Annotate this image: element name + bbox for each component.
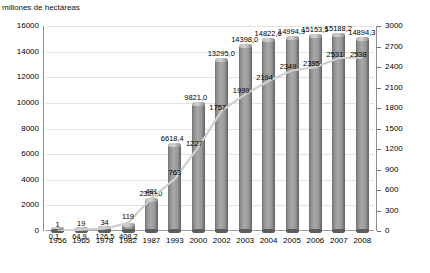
x-axis-tick-label: 2008 bbox=[353, 236, 371, 245]
line-point-label: 481 bbox=[145, 188, 158, 196]
line-series-layer: 1193411948176312271757199921942349239525… bbox=[46, 26, 374, 231]
x-axis-labels: 1956196519781982198719932000200220032004… bbox=[46, 236, 374, 252]
right-axis-tick-mark bbox=[377, 149, 381, 150]
x-axis-tick-label: 1993 bbox=[166, 236, 184, 245]
right-axis-tick-label: 600 bbox=[385, 186, 398, 194]
line-point-label: 2395 bbox=[303, 60, 320, 68]
line-point-label: 2194 bbox=[256, 74, 273, 82]
left-axis-tick-label: 4000 bbox=[21, 176, 39, 184]
line-series-svg bbox=[46, 26, 374, 231]
right-axis-tick-label: 300 bbox=[385, 207, 398, 215]
left-axis-tick-label: 8000 bbox=[21, 125, 39, 133]
x-axis-tick-label: 2002 bbox=[213, 236, 231, 245]
right-axis-tick-mark bbox=[377, 190, 381, 191]
x-axis-tick-label: 1982 bbox=[119, 236, 137, 245]
left-axis-tick-label: 2000 bbox=[21, 201, 39, 209]
line-point-label: 34 bbox=[100, 219, 108, 227]
right-axis-tick-label: 1200 bbox=[385, 145, 403, 153]
line-point-label: 1999 bbox=[233, 87, 250, 95]
left-axis-tick-label: 16000 bbox=[17, 22, 39, 30]
line-point-label: 2538 bbox=[350, 51, 367, 59]
right-axis-tick-mark bbox=[377, 211, 381, 212]
line-point-label: 119 bbox=[122, 213, 134, 221]
x-axis-tick-label: 2005 bbox=[283, 236, 301, 245]
right-axis-tick-mark bbox=[377, 108, 381, 109]
right-axis-tick-label: 1800 bbox=[385, 104, 403, 112]
right-axis-tick-label: 2400 bbox=[385, 63, 403, 71]
left-axis-tick-label: 14000 bbox=[17, 48, 39, 56]
x-axis-tick-label: 2003 bbox=[236, 236, 254, 245]
left-axis-tick-label: 10000 bbox=[17, 99, 39, 107]
right-axis-tick-label: 3000 bbox=[385, 22, 403, 30]
right-axis-tick-label: 0 bbox=[385, 227, 389, 235]
line-point-label: 763 bbox=[169, 169, 182, 177]
right-axis-tick-label: 2700 bbox=[385, 43, 403, 51]
right-axis-tick-mark bbox=[377, 129, 381, 130]
right-axis-tick-mark bbox=[377, 47, 381, 48]
x-axis-tick-label: 2004 bbox=[260, 236, 278, 245]
right-axis-tick-mark bbox=[377, 88, 381, 89]
right-axis-tick-mark bbox=[377, 170, 381, 171]
right-axis-tick-mark bbox=[377, 231, 381, 232]
line-point-label: 2531 bbox=[327, 51, 344, 59]
x-axis-tick-label: 2006 bbox=[307, 236, 325, 245]
line-point-label: 1227 bbox=[186, 140, 203, 148]
x-axis-tick-label: 1978 bbox=[96, 236, 114, 245]
right-axis-tick-label: 2100 bbox=[385, 84, 403, 92]
line-point-label: 2349 bbox=[280, 63, 297, 71]
y-axis-title: millones de hectáreas bbox=[2, 3, 80, 13]
x-axis-tick-label: 2007 bbox=[330, 236, 348, 245]
x-axis-tick-label: 1965 bbox=[72, 236, 90, 245]
left-axis-tick-label: 0 bbox=[35, 227, 39, 235]
left-axis-tick-label: 12000 bbox=[17, 73, 39, 81]
right-y-axis: 03006009001200150018002100240027003000 bbox=[376, 26, 428, 231]
left-axis-spine bbox=[43, 26, 44, 231]
line-point-label: 1 bbox=[56, 221, 60, 229]
x-axis-tick-label: 1956 bbox=[49, 236, 67, 245]
chart-container: millones de hectáreas 020004000600080001… bbox=[0, 0, 430, 273]
right-axis-tick-label: 900 bbox=[385, 166, 398, 174]
line-point-label: 19 bbox=[77, 220, 85, 228]
line-point-label: 1757 bbox=[209, 104, 226, 112]
x-axis-tick-label: 1987 bbox=[143, 236, 161, 245]
right-axis-tick-mark bbox=[377, 26, 381, 27]
x-axis-tick-label: 2000 bbox=[189, 236, 207, 245]
right-axis-tick-label: 1500 bbox=[385, 125, 403, 133]
right-axis-tick-mark bbox=[377, 67, 381, 68]
left-y-axis: 0200040006000800010000120001400016000 bbox=[0, 26, 44, 231]
left-axis-tick-label: 6000 bbox=[21, 150, 39, 158]
